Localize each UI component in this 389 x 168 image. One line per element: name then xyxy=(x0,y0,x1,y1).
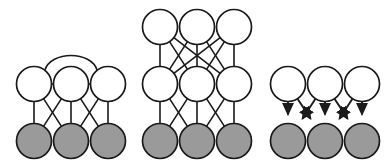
hidden-unit-node xyxy=(54,124,89,159)
nodes-layer xyxy=(17,10,380,159)
visible-unit-node xyxy=(54,67,89,102)
visible-unit-node xyxy=(180,10,215,45)
visible-unit-node xyxy=(180,67,215,102)
visible-unit-node xyxy=(143,10,178,45)
network-diagrams-svg xyxy=(0,0,389,168)
figure-container xyxy=(0,0,389,168)
visible-unit-node xyxy=(217,67,252,102)
hidden-unit-node xyxy=(143,124,178,159)
visible-unit-node xyxy=(308,67,343,102)
visible-unit-node xyxy=(271,67,306,102)
visible-unit-node xyxy=(143,67,178,102)
hidden-unit-node xyxy=(180,124,215,159)
hidden-unit-node xyxy=(271,124,306,159)
visible-unit-node xyxy=(217,10,252,45)
hidden-unit-node xyxy=(345,124,380,159)
hidden-unit-node xyxy=(91,124,126,159)
visible-unit-node xyxy=(345,67,380,102)
hidden-unit-node xyxy=(17,124,52,159)
visible-unit-node xyxy=(17,67,52,102)
hidden-unit-node xyxy=(308,124,343,159)
hidden-unit-node xyxy=(217,124,252,159)
visible-unit-node xyxy=(91,67,126,102)
